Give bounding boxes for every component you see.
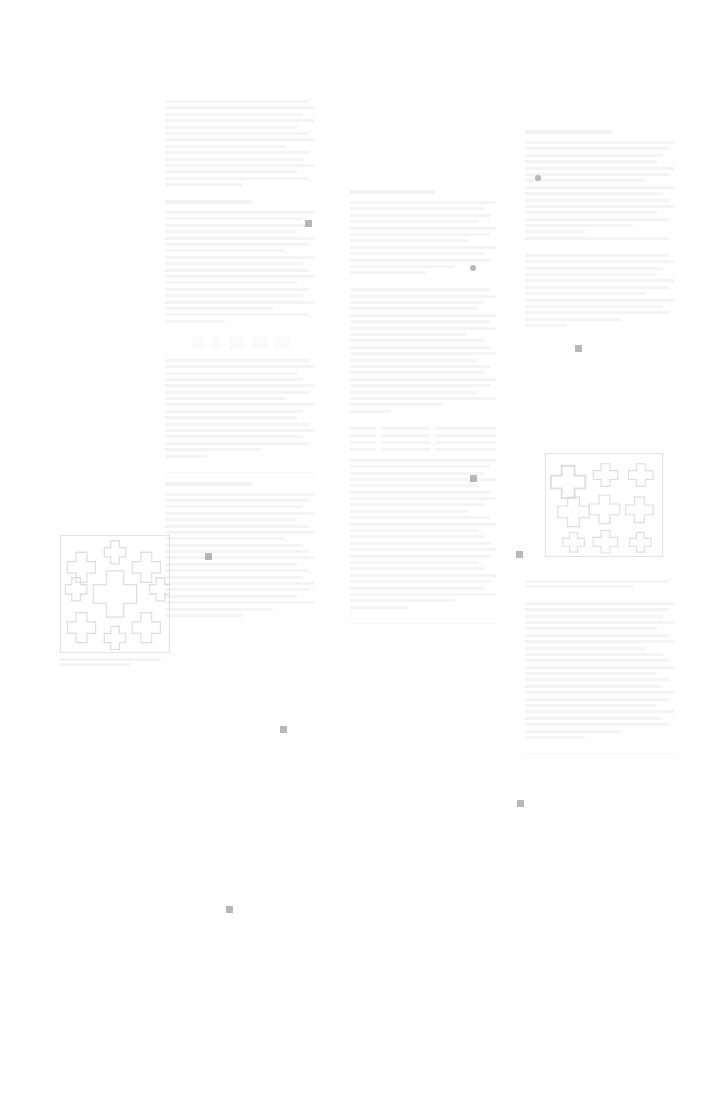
right-rule bbox=[525, 753, 675, 754]
right-column-figure bbox=[545, 453, 663, 557]
cross-polyomino-icon bbox=[546, 454, 662, 556]
margin-figure-caption bbox=[60, 658, 170, 666]
inline-formula bbox=[191, 337, 290, 349]
marker-5 bbox=[470, 475, 477, 482]
marker-3 bbox=[470, 265, 476, 271]
section-b bbox=[165, 482, 315, 617]
marker-1 bbox=[305, 220, 312, 227]
mid-block-4 bbox=[350, 633, 496, 734]
section-a-cont bbox=[165, 359, 315, 458]
right-column-figure-box bbox=[545, 453, 663, 557]
cross-polyomino-icon bbox=[61, 536, 169, 652]
mid-block-2 bbox=[350, 288, 496, 412]
right-block-2 bbox=[525, 254, 675, 327]
marker-2 bbox=[535, 175, 541, 181]
margin-figure-box bbox=[60, 535, 170, 653]
marker-10 bbox=[226, 906, 233, 913]
marker-7 bbox=[516, 551, 523, 558]
left-column bbox=[165, 100, 315, 1012]
mid-block-1 bbox=[350, 190, 496, 274]
mid-table-strip bbox=[350, 427, 496, 451]
marker-4 bbox=[575, 345, 582, 352]
lead-paragraph bbox=[165, 100, 315, 186]
marker-8 bbox=[280, 726, 287, 733]
document-page bbox=[0, 0, 708, 1104]
section-rule bbox=[165, 472, 315, 473]
margin-figure bbox=[60, 535, 170, 660]
mid-rule bbox=[350, 623, 496, 624]
right-block-4 bbox=[525, 763, 675, 854]
right-column-continued bbox=[525, 575, 675, 980]
dense-block bbox=[165, 631, 315, 743]
right-column-figure-caption bbox=[525, 580, 675, 588]
section-a bbox=[165, 200, 315, 323]
right-block-3 bbox=[525, 602, 675, 739]
right-block-1 bbox=[525, 130, 675, 240]
middle-column bbox=[350, 190, 496, 982]
marker-9 bbox=[517, 800, 524, 807]
